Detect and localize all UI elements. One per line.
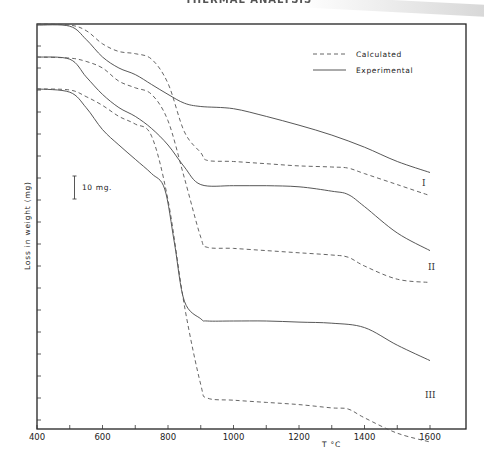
x-tick-label: 800 [160,432,176,442]
curve-label-I: I [422,178,426,188]
x-tick-label: 600 [94,432,110,442]
series-ii-calculated [37,57,430,283]
curve-label-III: III [425,390,436,400]
x-axis-title: T °C [321,440,341,449]
x-tick-label: 1200 [288,432,310,442]
series-iii-calculated [37,89,430,442]
scale-bar-label: 10 mg. [82,183,112,192]
legend-calculated-label: Calculated [356,50,402,59]
scale-bar-10mg: 10 mg. [73,176,112,199]
series-ii-experimental [37,57,430,251]
legend-experimental-label: Experimental [356,66,413,75]
plot-frame [37,24,466,429]
x-tick-label: 1600 [419,432,441,442]
curve-label-II: II [428,262,436,272]
series-iii-experimental [37,89,430,361]
tga-chart: 4006008001000120014001600 Calculated Exp… [0,0,484,463]
legend: Calculated Experimental [313,50,413,75]
x-axis-ticks: 4006008001000120014001600 [29,425,441,442]
series-i-experimental [37,25,430,173]
curves [37,24,430,442]
x-tick-label: 1000 [223,432,245,442]
x-tick-label: 400 [29,432,45,442]
x-tick-label: 1400 [354,432,376,442]
y-axis-title: Loss in weight (mg) [23,181,32,270]
